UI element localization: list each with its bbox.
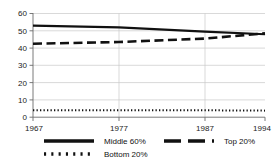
y-tick-label: 40 [18, 44, 27, 53]
x-tick-label: 1994 [253, 124, 271, 133]
legend-item-bottom: Bottom 20% [43, 149, 148, 159]
x-tick-label: 1977 [110, 124, 128, 133]
legend-item-middle: Middle 60% [43, 136, 146, 146]
y-tick-label: 50 [18, 27, 27, 36]
legend-label-middle: Middle 60% [104, 137, 146, 146]
legend-label-bottom: Bottom 20% [104, 150, 148, 159]
y-tick-label: 30 [18, 61, 27, 70]
line-chart: 60 50 40 30 20 10 0 1967 1977 1987 1994 … [0, 0, 277, 166]
x-tick-label: 1987 [196, 124, 214, 133]
legend-item-top: Top 20% [163, 136, 255, 146]
chart-legend: Middle 60% Top 20% Bottom 20% [0, 136, 277, 166]
y-tick-label: 60 [18, 9, 27, 18]
y-tick-label: 20 [18, 79, 27, 88]
y-tick-label: 0 [23, 113, 28, 122]
legend-swatch-dotted-icon [43, 149, 95, 159]
legend-swatch-solid-icon [43, 136, 95, 146]
x-tick-label: 1967 [25, 124, 43, 133]
legend-swatch-dashed-icon [163, 136, 215, 146]
legend-label-top: Top 20% [224, 137, 255, 146]
y-tick-label: 10 [18, 96, 27, 105]
